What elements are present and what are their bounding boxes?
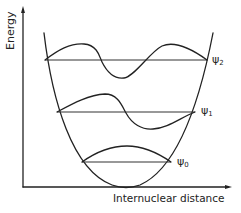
wavefunction-psi2 <box>45 44 207 78</box>
psi-subscript: 1 <box>208 110 212 118</box>
energy-axis-label: Energy <box>4 11 17 50</box>
level-label-psi2: ψ2 <box>212 53 224 67</box>
psi-subscript: 0 <box>184 161 188 169</box>
level-label-psi0: ψ0 <box>177 155 189 169</box>
distance-axis-label: Internuclear distance <box>113 192 225 204</box>
psi-subscript: 2 <box>219 59 223 67</box>
energy-axis <box>21 6 25 187</box>
wavefunction-psi0 <box>82 146 171 162</box>
level-label-psi1: ψ1 <box>201 104 213 118</box>
